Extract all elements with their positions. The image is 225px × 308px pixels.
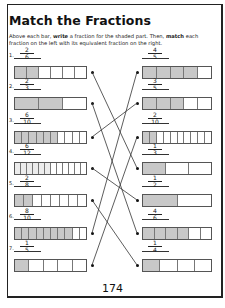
bar-cell — [15, 98, 39, 109]
bar-cell — [143, 98, 157, 109]
right-fraction-2[interactable]: 35 — [148, 78, 162, 90]
bar-cell — [201, 228, 212, 239]
right-match-dot[interactable] — [136, 71, 139, 74]
bar-cell — [195, 260, 211, 271]
bar-cell — [178, 228, 190, 239]
bar-cell — [143, 228, 155, 239]
right-fraction-4[interactable]: 13 — [148, 143, 162, 155]
right-fraction-5[interactable]: 12 — [148, 175, 162, 187]
bar-cell — [37, 228, 44, 239]
left-fraction-7[interactable]: 15 — [20, 240, 34, 252]
denominator: 6 — [20, 53, 34, 60]
denominator: 6 — [148, 214, 162, 221]
bar-cell — [37, 132, 44, 143]
left-fraction-1[interactable]: 26 — [20, 47, 34, 59]
right-fraction-1[interactable]: 45 — [148, 47, 162, 59]
bar-cell — [184, 132, 191, 143]
instructions: Above each bar, write a fraction for the… — [9, 33, 219, 47]
left-bar-2 — [14, 97, 87, 110]
bar-cell — [155, 228, 167, 239]
bar-cell — [143, 67, 157, 78]
right-bar-6 — [142, 227, 212, 240]
denominator: 10 — [20, 214, 34, 221]
bar-cell — [160, 260, 177, 271]
instructions-bold-match: match — [166, 33, 184, 39]
bar-cell — [51, 195, 60, 206]
bar-cell — [58, 260, 72, 271]
bar-cell — [29, 132, 36, 143]
bar-cell — [15, 132, 22, 143]
bar-cell — [65, 132, 72, 143]
left-bar-5 — [14, 194, 87, 207]
bar-cell — [22, 228, 29, 239]
right-match-dot[interactable] — [136, 199, 139, 202]
bar-cell — [191, 132, 198, 143]
bar-cell — [157, 98, 171, 109]
right-fraction-6[interactable]: 46 — [148, 208, 162, 220]
bar-cell — [189, 163, 211, 174]
bar-cell — [58, 132, 65, 143]
left-match-dot[interactable] — [91, 199, 94, 202]
denominator: 8 — [20, 181, 34, 188]
left-match-dot[interactable] — [91, 102, 94, 105]
denominator: 5 — [148, 84, 162, 91]
bar-cell — [143, 132, 150, 143]
bar-cell — [171, 98, 185, 109]
right-match-dot[interactable] — [136, 102, 139, 105]
left-match-dot[interactable] — [91, 136, 94, 139]
bar-cell — [198, 132, 205, 143]
denominator: 12 — [20, 149, 34, 156]
denominator: 10 — [20, 118, 34, 125]
right-bar-7 — [142, 259, 212, 272]
page-number: 174 — [0, 282, 225, 295]
bar-cell — [69, 195, 78, 206]
bar-cell — [63, 67, 75, 78]
left-bar-7 — [14, 259, 87, 272]
bar-cell — [15, 228, 22, 239]
worksheet-page — [7, 4, 223, 298]
left-fraction-6[interactable]: 810 — [20, 208, 34, 220]
bar-cell — [15, 67, 27, 78]
bar-cell — [73, 228, 80, 239]
denominator: 4 — [148, 246, 162, 253]
left-match-dot[interactable] — [91, 264, 94, 267]
left-fraction-4[interactable]: 612 — [20, 143, 34, 155]
left-match-dot[interactable] — [91, 232, 94, 235]
right-match-dot[interactable] — [136, 264, 139, 267]
bar-cell — [15, 260, 29, 271]
bar-cell — [75, 67, 86, 78]
right-match-dot[interactable] — [136, 136, 139, 139]
bar-cell — [29, 228, 36, 239]
bar-cell — [51, 67, 63, 78]
bar-cell — [44, 228, 51, 239]
bar-cell — [44, 132, 51, 143]
bar-cell — [29, 260, 43, 271]
right-fraction-3[interactable]: 210 — [148, 112, 162, 124]
bar-cell — [184, 67, 198, 78]
left-match-dot[interactable] — [91, 167, 94, 170]
bar-cell — [51, 132, 58, 143]
instructions-text: a fraction for the shaded part. Then, — [68, 33, 166, 39]
right-match-dot[interactable] — [136, 232, 139, 235]
bar-cell — [33, 195, 42, 206]
right-fraction-7[interactable]: 14 — [148, 240, 162, 252]
bar-cell — [157, 67, 171, 78]
instructions-text: Above each bar, — [9, 33, 53, 39]
bar-cell — [39, 98, 63, 109]
left-match-dot[interactable] — [91, 71, 94, 74]
denominator: 5 — [20, 246, 34, 253]
left-fraction-2[interactable]: 23 — [20, 78, 34, 90]
left-fraction-5[interactable]: 28 — [20, 175, 34, 187]
bar-cell — [143, 260, 160, 271]
page-title: Match the Fractions — [9, 13, 151, 28]
right-bar-4 — [142, 162, 212, 175]
left-fraction-3[interactable]: 610 — [20, 112, 34, 124]
bar-cell — [171, 132, 178, 143]
bar-cell — [205, 132, 211, 143]
bar-cell — [150, 132, 157, 143]
bar-cell — [22, 132, 29, 143]
bar-cell — [198, 67, 211, 78]
right-bar-5 — [142, 194, 212, 207]
right-match-dot[interactable] — [136, 167, 139, 170]
bar-cell — [51, 228, 58, 239]
